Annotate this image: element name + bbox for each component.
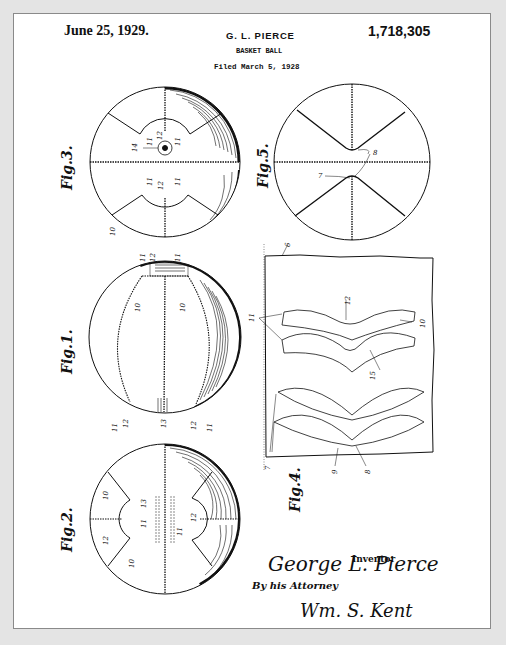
ref-8: 8: [373, 149, 378, 157]
ref-8: 8: [364, 469, 372, 474]
ref-12: 12: [149, 253, 157, 262]
fig-2-label: Fig.2.: [59, 507, 75, 553]
ref-6: 6: [284, 242, 292, 247]
fig-3-label: Fig.3.: [59, 145, 75, 191]
ref-10: 10: [109, 227, 117, 236]
ref-10: 10: [128, 559, 136, 568]
ref-10: 10: [134, 303, 142, 312]
ref-12: 12: [344, 296, 352, 305]
figure-4: [259, 244, 434, 470]
ref-11: 11: [248, 313, 256, 322]
figure-1: [89, 261, 241, 413]
ref-10: 10: [102, 491, 110, 500]
ref-14: 14: [131, 143, 139, 152]
fig-4-label: Fig.4.: [287, 467, 303, 513]
ref-11: 11: [111, 423, 119, 432]
figure-3: [90, 87, 240, 240]
ref-12: 12: [102, 536, 110, 545]
attorney-signature: Wm. S. Kent: [300, 600, 413, 621]
ref-11: 11: [176, 527, 184, 536]
ref-15: 15: [369, 371, 377, 380]
ref-11: 11: [146, 177, 154, 186]
inventor-label: Inventor: [352, 554, 395, 564]
ref-11: 11: [174, 137, 182, 146]
ref-10: 10: [419, 319, 427, 328]
attorney-label: By his Attorney: [252, 580, 338, 591]
ref-12: 12: [156, 131, 164, 140]
patent-drawings: 14 11 12 11 11 12 11 10 Fig.3. 8 7 Fig.5…: [0, 0, 506, 645]
ref-13: 13: [140, 499, 148, 508]
ref-11: 11: [140, 519, 148, 528]
figure-5: [274, 84, 430, 240]
ref-10: 10: [179, 303, 187, 312]
ref-12: 12: [122, 419, 130, 428]
ref-13: 13: [160, 419, 168, 428]
ref-12: 12: [157, 181, 165, 190]
ref-12: 12: [190, 513, 198, 522]
fig-1-label: Fig.1.: [59, 329, 75, 375]
ref-7: 7: [264, 465, 272, 470]
figure-2: [90, 444, 240, 594]
ref-12: 12: [190, 421, 198, 430]
ref-11: 11: [174, 253, 182, 262]
fig-5-label: Fig.5.: [255, 143, 271, 189]
ref-9: 9: [331, 469, 339, 474]
ref-11: 11: [146, 137, 154, 146]
ref-7: 7: [318, 172, 323, 180]
ref-11: 11: [139, 253, 147, 262]
ref-11: 11: [174, 177, 182, 186]
ref-11: 11: [206, 423, 214, 432]
